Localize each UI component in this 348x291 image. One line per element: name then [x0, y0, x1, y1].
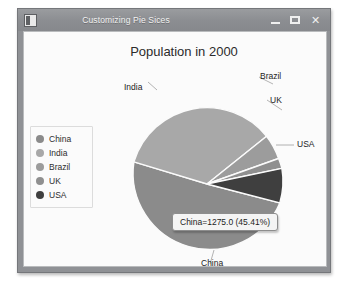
- slice-label-china: China: [201, 258, 223, 267]
- chart-legend: China India Brazil UK USA: [30, 126, 93, 208]
- leader-line-india: [148, 82, 157, 90]
- maximize-button[interactable]: [287, 13, 304, 28]
- pie-tooltip: China=1275.0 (45.41%): [172, 213, 278, 231]
- legend-item-india[interactable]: India: [36, 146, 88, 160]
- legend-label: China: [49, 134, 71, 144]
- legend-swatch-icon: [36, 135, 44, 143]
- legend-swatch-icon: [36, 191, 44, 199]
- legend-item-brazil[interactable]: Brazil: [36, 160, 88, 174]
- legend-item-uk[interactable]: UK: [36, 174, 88, 188]
- slice-label-usa: USA: [297, 139, 314, 149]
- chart-canvas: Population in 2000 India Brazil UK: [23, 31, 327, 267]
- legend-swatch-icon: [36, 149, 44, 157]
- slice-label-uk: UK: [270, 95, 282, 105]
- application-window: Customizing Pie Sices ✕ Population in 20…: [17, 8, 331, 273]
- minimize-button[interactable]: [267, 13, 284, 28]
- legend-item-china[interactable]: China: [36, 132, 88, 146]
- legend-swatch-icon: [36, 177, 44, 185]
- legend-label: India: [49, 148, 67, 158]
- slice-label-brazil: Brazil: [260, 71, 281, 81]
- legend-swatch-icon: [36, 163, 44, 171]
- close-button[interactable]: ✕: [307, 13, 324, 28]
- app-icon: [24, 14, 37, 27]
- legend-label: USA: [49, 190, 66, 200]
- title-bar[interactable]: Customizing Pie Sices ✕: [18, 9, 330, 31]
- window-title: Customizing Pie Sices: [37, 15, 267, 25]
- slice-label-india: India: [124, 82, 142, 92]
- legend-item-usa[interactable]: USA: [36, 188, 88, 202]
- legend-label: UK: [49, 176, 61, 186]
- legend-label: Brazil: [49, 162, 70, 172]
